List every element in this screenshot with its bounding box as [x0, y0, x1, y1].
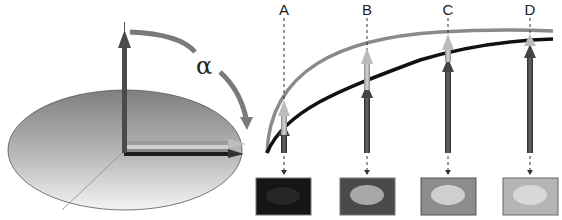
column-label-B: B — [362, 1, 372, 18]
column-A — [278, 18, 290, 175]
alpha-label: α — [196, 52, 212, 80]
column-label-A: A — [279, 1, 289, 18]
column-label-D: D — [525, 1, 536, 18]
column-C — [442, 18, 454, 175]
vertical-axis-arrow — [122, 45, 127, 153]
diagram-canvas — [0, 0, 562, 220]
alpha-arc — [130, 32, 195, 52]
thumbnail-D — [503, 178, 558, 215]
thumbnail-A — [256, 178, 311, 215]
column-label-C: C — [443, 1, 454, 18]
thumbnail-B — [340, 178, 395, 215]
lower-curve — [267, 39, 553, 153]
curves-group — [267, 30, 553, 153]
thumbnail-C — [421, 178, 476, 215]
disk-group — [8, 22, 253, 210]
upper-curve — [267, 30, 553, 153]
